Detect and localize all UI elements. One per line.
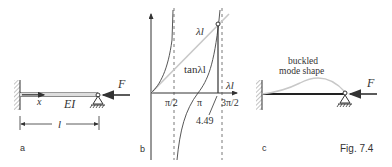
mode-label-1: buckled [288,56,318,66]
panel-b: λl λl tanλl 4.49 π/2 π 3π/2 b [140,8,239,160]
length-dimension: l [20,116,99,130]
buckled-mode-curve [262,78,345,94]
root-leader [209,96,217,115]
panel-c: buckled mode shape F c Fig. 7.4 [256,56,377,154]
force-label-c: F [366,76,375,90]
fixed-wall [14,80,20,110]
tick-pi-half: π/2 [165,97,178,108]
panel-a-label: a [20,143,25,153]
lambda-l-curve-label: λl [195,25,204,37]
figure-caption: Fig. 7.4 [340,143,374,154]
panel-b-label: b [140,144,145,154]
ei-label: EI [63,97,76,111]
tick-3pi-half: 3π/2 [221,97,239,108]
intersection-point [216,22,220,26]
x-axis-label: λl [225,79,234,91]
x-label: x [36,96,42,107]
mode-label-2: mode shape [279,66,324,76]
panel-a: x EI F l a [14,77,130,153]
fixed-wall-c [256,80,262,110]
length-label: l [58,118,61,130]
root-value: 4.49 [196,115,214,126]
panel-c-label: c [262,143,267,153]
tan-branch-1 [151,10,173,93]
force-label-a: F [117,77,126,91]
figure-canvas: x EI F l a λl λl [0,0,392,167]
tick-pi: π [197,97,202,108]
tan-curve-label: tanλl [184,63,206,75]
